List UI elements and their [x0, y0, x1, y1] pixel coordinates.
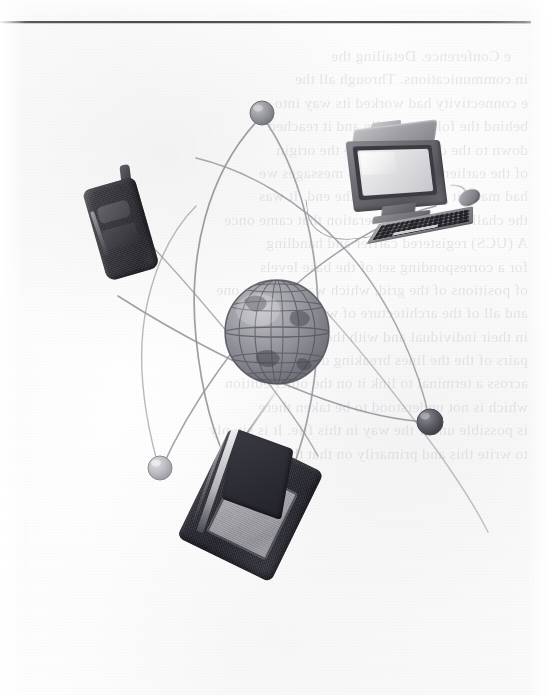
- monitor-case: [345, 140, 447, 212]
- globe: [225, 280, 329, 384]
- scanned-page: e Conference. Detailing the in communica…: [0, 0, 547, 695]
- orbit-node-lower-left: [148, 456, 172, 480]
- monitor-screen: [357, 149, 433, 196]
- orbit-node-right: [417, 409, 443, 435]
- monitor-bezel: [353, 145, 438, 201]
- monitor-screen-glare: [360, 152, 397, 176]
- orbit-node-top: [250, 101, 274, 125]
- desktop-computer: [345, 114, 492, 247]
